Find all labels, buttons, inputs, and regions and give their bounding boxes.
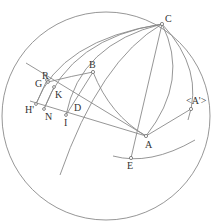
label-k: K — [55, 89, 63, 100]
label-aprime: <A'> — [186, 95, 207, 106]
point-h — [35, 103, 38, 106]
label-c: C — [165, 13, 172, 24]
point-g — [47, 81, 50, 84]
point-c — [160, 22, 163, 25]
line-k-n — [44, 87, 54, 109]
label-b: B — [89, 59, 96, 70]
label-e: E — [127, 160, 133, 171]
point-b — [91, 70, 94, 73]
label-a: A — [145, 139, 153, 150]
label-n: N — [45, 111, 52, 122]
point-k — [53, 86, 56, 89]
label-i: I — [64, 117, 67, 128]
point-n — [43, 108, 46, 111]
line-a-aprime — [146, 109, 191, 136]
point-i — [65, 114, 68, 117]
point-aprime — [189, 107, 192, 110]
arc-c-to-a — [146, 24, 173, 136]
point-a — [144, 134, 147, 137]
label-g: G — [35, 78, 42, 89]
arc-through-e — [113, 140, 195, 159]
label-d: D — [74, 102, 81, 113]
label-h: H' — [25, 104, 34, 115]
celestial-sphere-diagram: C B R G K D H' N I A E <A'> — [0, 0, 212, 224]
label-r: R — [42, 70, 49, 81]
